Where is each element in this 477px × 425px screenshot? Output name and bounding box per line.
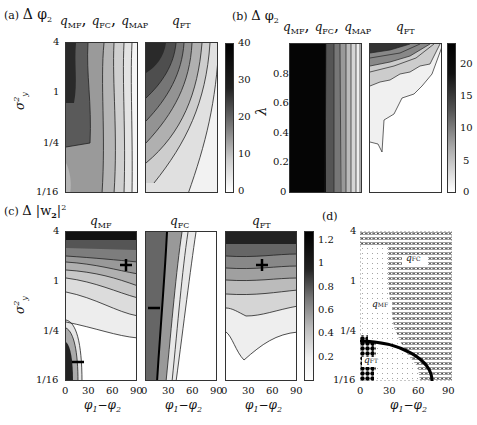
c-ytick: 1/4 [43, 325, 59, 336]
b-left-heatmap [289, 43, 362, 193]
c-colorbar [304, 231, 314, 381]
c2-title: qFC [170, 210, 189, 230]
d-region-map: qFC qMF qFT [360, 231, 452, 381]
b-cb-tick: 0 [463, 186, 469, 197]
a-right-heatmap [145, 42, 218, 193]
b-cb-tick: 5 [463, 155, 469, 166]
b-cb-tick: 20 [460, 58, 473, 69]
c-cb-tick: 0.4 [318, 327, 334, 338]
a-ylabel: σ2y [12, 92, 29, 110]
c-cb-tick: 0.6 [318, 304, 334, 315]
d-xlabel: φ1−φ2 [390, 398, 427, 414]
c3-xtick: 30 [242, 385, 255, 396]
c2-heatmap [145, 231, 217, 381]
c1-title: qMF [90, 210, 111, 230]
d-xtick: 90 [442, 385, 455, 396]
b-ytick: 0.4 [273, 127, 289, 138]
a-cb-tick: 40 [238, 37, 251, 48]
a-ytick: 4 [53, 36, 59, 47]
d-label-qmf: qMF [372, 299, 388, 309]
b-cb-tick: 10 [460, 122, 473, 133]
c2-xtick: 60 [186, 385, 199, 396]
c1-xtick: 60 [106, 385, 119, 396]
panel-c-title: (c) Δ |w2|2 [4, 203, 66, 220]
c-ytick: 4 [53, 225, 59, 236]
b-ytick: 0.2 [273, 156, 289, 167]
c-cb-tick: 1 [318, 257, 324, 268]
d-xtick: 30 [383, 385, 396, 396]
panel-a-title: (a) Δ φ2 [4, 6, 52, 24]
b-cb-tick: 15 [460, 90, 473, 101]
c-cb-tick: 0.2 [318, 351, 334, 362]
c-cb-tick: 1.2 [318, 234, 334, 245]
a-left-title: qMF, qFC, qMAP [60, 10, 148, 30]
a-cb-tick: 30 [238, 74, 251, 85]
a-colorbar [225, 43, 234, 193]
d-label-qft: qFT [364, 355, 378, 365]
a-cb-tick: 10 [238, 148, 251, 159]
a-ytick: 1/16 [36, 186, 58, 197]
c2-xtick: 0 [141, 385, 147, 396]
c-cb-tick: 0.8 [318, 281, 334, 292]
d-xtick: 60 [412, 385, 425, 396]
a-left-heatmap [65, 42, 138, 193]
c-ytick: 1 [53, 275, 59, 286]
d-ytick: 4 [350, 225, 356, 236]
c-ytick: 1/16 [36, 374, 58, 385]
c1-heatmap [65, 231, 137, 381]
c1-xlabel: φ1−φ2 [84, 398, 121, 414]
panel-d-title: (d) [322, 210, 338, 223]
d-label-qfc: qFC [406, 253, 421, 263]
c3-xtick: 60 [266, 385, 279, 396]
b-colorbar [447, 43, 456, 193]
c1-xtick: 0 [62, 385, 68, 396]
d-xtick: 0 [357, 385, 363, 396]
c-ylabel: σ2y [12, 296, 29, 314]
b-right-heatmap [369, 43, 442, 193]
b-right-title: qFT [396, 16, 415, 36]
c3-xtick: 0 [221, 385, 227, 396]
c2-xtick: 30 [162, 385, 175, 396]
b-ytick: 0 [280, 186, 286, 197]
c1-xtick: 30 [82, 385, 95, 396]
a-ytick: 1/4 [43, 137, 59, 148]
a-cb-tick: 0 [238, 185, 244, 196]
c3-title: qFT [252, 210, 271, 230]
d-ytick: 1/4 [340, 325, 356, 336]
c3-heatmap [225, 231, 297, 381]
d-ytick: 1 [350, 275, 356, 286]
a-ytick: 1 [53, 86, 59, 97]
a-cb-tick: 20 [238, 111, 251, 122]
b-ytick: 0.8 [273, 68, 289, 79]
a-right-title: qFT [172, 10, 191, 30]
c3-xtick: 90 [290, 385, 303, 396]
d-ytick: 1/16 [333, 374, 355, 385]
panel-b-title: (b) Δ φ2 [232, 8, 279, 25]
b-ytick: 0.6 [273, 97, 289, 108]
c3-xlabel: φ1−φ2 [245, 398, 282, 414]
c2-xlabel: φ1−φ2 [165, 398, 202, 414]
b-left-title: qMF, qFC, qMAP [283, 16, 371, 36]
b-ylabel: λ [253, 107, 269, 116]
